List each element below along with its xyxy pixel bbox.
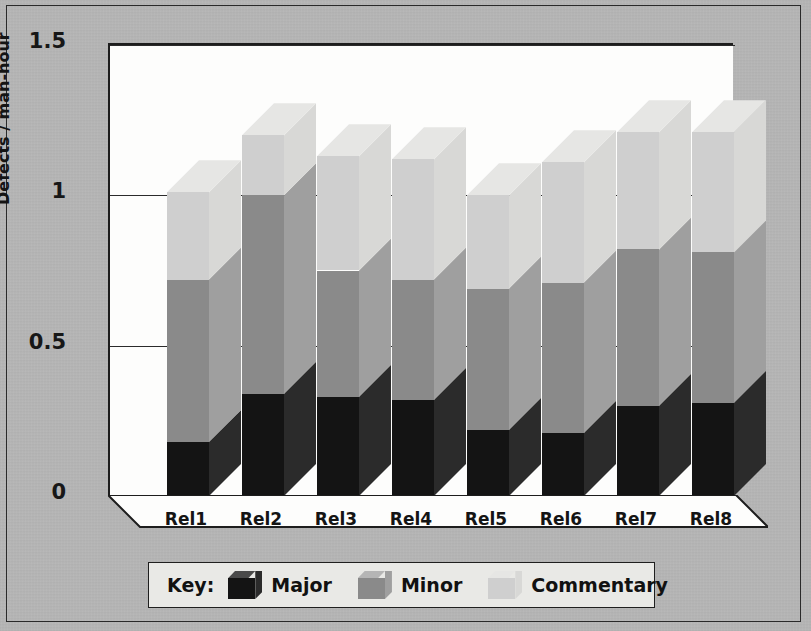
bar-segment <box>617 249 659 405</box>
bar-segment <box>617 406 659 496</box>
bar-segment-front <box>167 442 209 496</box>
bar-segment-front <box>542 433 584 496</box>
bar-segment <box>167 192 209 279</box>
bar-segment <box>467 289 509 430</box>
bar-segment-front <box>467 195 509 288</box>
bar-segment-front <box>617 249 659 405</box>
y-axis-title: Defects / man-hour <box>0 32 13 205</box>
bar-segment <box>167 280 209 442</box>
bar-segment <box>542 162 584 282</box>
bar-segment-front <box>242 135 284 195</box>
bar-segment <box>317 397 359 496</box>
x-tick-label: Rel6 <box>528 509 594 529</box>
bar-segment-front <box>317 156 359 270</box>
bar-segment-side <box>284 163 316 393</box>
legend-swatch-top <box>488 571 515 578</box>
bar-segment <box>692 132 734 252</box>
bar-segment <box>392 159 434 279</box>
legend-swatch-top <box>358 571 385 578</box>
legend-label: Major <box>271 574 332 596</box>
legend-entry: Minor <box>358 571 462 599</box>
bar-segment-front <box>692 403 734 496</box>
legend-entry: Commentary <box>488 571 668 599</box>
bar-segment-side <box>734 220 766 402</box>
legend-label: Commentary <box>531 574 668 596</box>
bar-segment-front <box>617 132 659 249</box>
bar-segment <box>542 433 584 496</box>
figure-page: 00.511.5 Defects / man-hour Rel1Rel2Rel3… <box>0 0 811 631</box>
bar-segment-front <box>317 397 359 496</box>
bar-segment <box>392 280 434 400</box>
bar-segment-front <box>242 394 284 496</box>
bar-segment-side <box>209 248 241 442</box>
legend-swatch-icon <box>358 571 392 599</box>
x-tick-label: Rel8 <box>678 509 744 529</box>
legend-swatch-front <box>488 578 515 599</box>
bar-segment <box>617 132 659 249</box>
bar-segment-front <box>542 283 584 433</box>
bar-segment <box>542 283 584 433</box>
bar-segment-front <box>467 289 509 430</box>
legend-title: Key: <box>167 574 214 596</box>
legend-swatch-side <box>385 571 392 599</box>
bar-segment <box>692 403 734 496</box>
legend-swatch-top <box>228 571 255 578</box>
legend-entry: Major <box>228 571 332 599</box>
legend-swatch-front <box>358 578 385 599</box>
bar-segment-front <box>617 406 659 496</box>
y-tick-label: 0 <box>0 480 66 504</box>
gridline <box>110 45 735 46</box>
bar-segment-front <box>692 132 734 252</box>
x-tick-label: Rel7 <box>603 509 669 529</box>
x-tick-label: Rel3 <box>303 509 369 529</box>
x-tick-label: Rel2 <box>228 509 294 529</box>
bar-segment <box>242 394 284 496</box>
bar-segment <box>167 442 209 496</box>
bar-segment <box>467 195 509 288</box>
legend-swatch-side <box>515 571 522 599</box>
legend-entries: MajorMinorCommentary <box>228 571 694 599</box>
x-tick-label: Rel1 <box>153 509 219 529</box>
bar-segment <box>692 252 734 402</box>
bar-segment-front <box>542 162 584 282</box>
bar-segment-front <box>392 159 434 279</box>
bar-segment <box>242 135 284 195</box>
bar-segment-front <box>242 195 284 393</box>
bar-segment-front <box>467 430 509 496</box>
chart-legend: Key: MajorMinorCommentary <box>148 562 655 608</box>
legend-swatch-icon <box>488 571 522 599</box>
bar-segment <box>317 271 359 397</box>
y-tick-label: 0.5 <box>0 330 66 354</box>
legend-label: Minor <box>401 574 462 596</box>
bar-segment <box>242 195 284 393</box>
bar-segment-side <box>659 217 691 405</box>
plot-area <box>108 43 733 495</box>
bar-segment-front <box>692 252 734 402</box>
bar-segment-front <box>167 280 209 442</box>
bar-segment-front <box>167 192 209 279</box>
bar-segment <box>392 400 434 496</box>
bar-segment-front <box>392 400 434 496</box>
bar-segment-side <box>584 251 616 433</box>
x-tick-label: Rel4 <box>378 509 444 529</box>
bar-segment-front <box>317 271 359 397</box>
bar-segment <box>467 430 509 496</box>
bar-segment-front <box>392 280 434 400</box>
legend-swatch-icon <box>228 571 262 599</box>
bar-segment <box>317 156 359 270</box>
legend-swatch-side <box>255 571 262 599</box>
x-tick-label: Rel5 <box>453 509 519 529</box>
legend-swatch-front <box>228 578 255 599</box>
